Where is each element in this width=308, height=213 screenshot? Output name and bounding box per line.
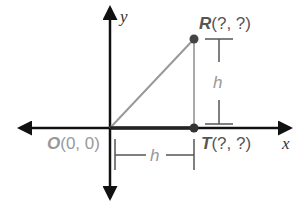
point-R-label: R(?, ?) [199, 14, 251, 33]
x-axis-label: x [281, 134, 290, 153]
coordinate-diagram: h h y x R(?, ?) T(?, ?) O(0, 0) [0, 0, 308, 213]
segment-OR [110, 39, 194, 128]
horizontal-h-label: h [150, 146, 159, 165]
point-T-label: T(?, ?) [201, 134, 251, 153]
y-axis-label: y [118, 7, 128, 26]
point-O-label: O(0, 0) [47, 134, 100, 153]
point-R [190, 35, 199, 44]
vertical-h-label: h [213, 73, 222, 92]
point-T [190, 124, 199, 133]
